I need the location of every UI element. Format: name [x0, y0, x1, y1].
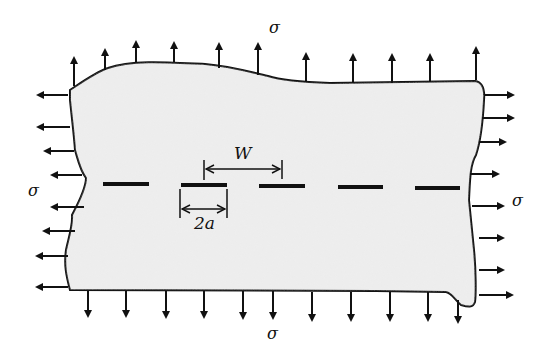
sigma-top-label: σ: [269, 20, 280, 36]
sigma-bottom-label: σ: [267, 326, 278, 342]
sigma-left-label: σ: [28, 183, 39, 199]
diagram-canvas: [0, 0, 556, 358]
crack-length-label-2a: 2a: [194, 215, 215, 232]
crack-diagram: σ σ σ σ W 2a: [0, 0, 556, 358]
spacing-label-w: W: [234, 145, 251, 162]
bottom-stress-arrows: [88, 291, 458, 322]
sigma-right-label: σ: [512, 193, 523, 209]
